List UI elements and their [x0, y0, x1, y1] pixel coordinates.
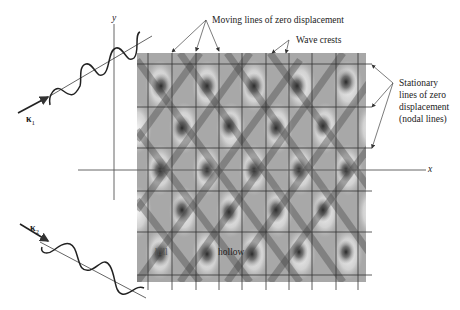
moving-lines-annotation: Moving lines of zero displacement — [212, 15, 344, 26]
hill-label: hill — [155, 247, 168, 258]
stationary-line-4: (nodal lines) — [399, 113, 449, 125]
wave-vector-2-subscript: 2 — [36, 228, 40, 236]
diagram-canvas: y x κ1 κ2 Moving lines of zero displacem… — [0, 0, 460, 310]
stationary-line-3: displacement — [399, 101, 449, 113]
wave-vector-2-label: κ2 — [30, 222, 39, 238]
wave-crests-annotation: Wave crests — [296, 35, 341, 46]
wave-vector-1-label: κ1 — [26, 113, 35, 129]
wave-1 — [18, 32, 152, 113]
y-axis-label: y — [112, 13, 116, 24]
diagram-svg — [0, 0, 460, 310]
stationary-line-2: lines of zero — [399, 89, 449, 101]
stationary-line-1: Stationary — [399, 77, 449, 89]
hollow-label: hollow — [218, 247, 244, 258]
wave-vector-1-subscript: 1 — [32, 119, 36, 127]
x-axis-label: x — [428, 164, 432, 175]
stationary-lines-annotation: Stationary lines of zero displacement (n… — [399, 77, 449, 125]
